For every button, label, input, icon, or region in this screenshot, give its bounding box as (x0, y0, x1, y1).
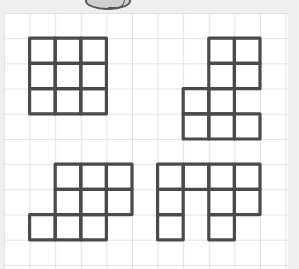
shape-cell (158, 189, 184, 214)
shape-cell (30, 63, 56, 88)
shape-cell (30, 215, 56, 240)
shape-cell (55, 215, 81, 240)
shape-cell (30, 38, 56, 63)
shape-cell (209, 215, 235, 240)
shape-cell (55, 164, 81, 189)
shape-cell (234, 38, 260, 63)
shape-cell (158, 164, 184, 189)
shape-cell (81, 89, 107, 114)
shape-cell (209, 89, 235, 114)
shape-cell (81, 38, 107, 63)
shape-cell (55, 89, 81, 114)
shape-cell (106, 164, 132, 189)
shapes-layer (0, 0, 299, 269)
shape-d (158, 164, 260, 240)
shape-cell (234, 164, 260, 189)
shape-cell (209, 189, 235, 214)
shape-cell (81, 164, 107, 189)
shape-cell (55, 38, 81, 63)
shape-cell (106, 189, 132, 214)
shape-cell (183, 89, 209, 114)
shape-cell (30, 89, 56, 114)
shape-cell (234, 114, 260, 139)
shape-cell (81, 63, 107, 88)
shape-cell (183, 164, 209, 189)
shape-a-square (30, 38, 107, 114)
shape-b (183, 38, 260, 139)
shape-cell (158, 215, 184, 240)
shape-cell (234, 189, 260, 214)
shape-c (30, 164, 132, 240)
shape-cell (234, 63, 260, 88)
shape-cell (209, 38, 235, 63)
shape-cell (209, 164, 235, 189)
shape-cell (81, 189, 107, 214)
shape-cell (183, 114, 209, 139)
shape-cell (55, 189, 81, 214)
shape-cell (55, 63, 81, 88)
shape-cell (209, 63, 235, 88)
shape-cell (209, 114, 235, 139)
shape-cell (81, 215, 107, 240)
